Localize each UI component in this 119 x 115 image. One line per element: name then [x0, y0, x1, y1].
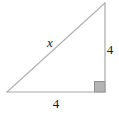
right-angle-marker: [95, 82, 106, 93]
right-triangle-figure: x 4 4: [0, 0, 119, 115]
vertical-leg-label: 4: [107, 43, 114, 56]
hypotenuse-label: x: [47, 36, 53, 49]
horizontal-leg-label: 4: [53, 97, 60, 110]
triangle-hypotenuse-line: [7, 3, 105, 92]
